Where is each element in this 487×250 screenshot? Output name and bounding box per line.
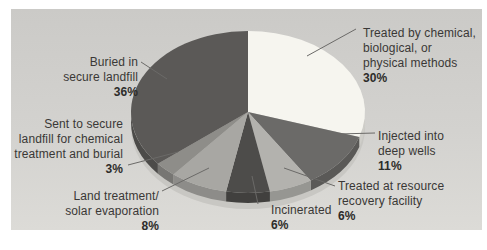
label-injected-into-deep-wells: Injected into deep wells 11% [378, 129, 444, 174]
label-percent: 6% [271, 218, 331, 233]
label-line: recovery facility [338, 194, 444, 209]
label-sent-to-secure-landfill: Sent to secure landfill for chemical tre… [14, 117, 123, 177]
label-line: Treated by chemical, [363, 26, 476, 41]
figure: Treated by chemical, biological, or phys… [0, 0, 487, 250]
label-line: deep wells [378, 144, 444, 159]
leader-line-treated-by-chemical [307, 29, 356, 56]
label-line: Sent to secure [14, 117, 123, 132]
label-percent: 11% [378, 159, 444, 174]
label-percent: 36% [63, 85, 138, 100]
label-line: solar evaporation [65, 204, 159, 219]
label-percent: 30% [363, 71, 476, 86]
label-buried-in-secure-landfill: Buried in secure landfill 36% [63, 55, 138, 100]
label-line: Land treatment/ [65, 189, 159, 204]
label-line: physical methods [363, 56, 476, 71]
label-land-treatment-solar-evaporation: Land treatment/ solar evaporation 8% [65, 189, 159, 234]
label-line: treatment and burial [14, 147, 123, 162]
label-line: landfill for chemical [14, 132, 123, 147]
label-line: biological, or [363, 41, 476, 56]
label-line: Treated at resource [338, 179, 444, 194]
label-percent: 6% [338, 209, 444, 224]
label-line: Incinerated [271, 203, 331, 218]
label-treated-by-chemical: Treated by chemical, biological, or phys… [363, 26, 476, 86]
label-treated-at-resource-recovery: Treated at resource recovery facility 6% [338, 179, 444, 224]
label-line: Injected into [378, 129, 444, 144]
label-percent: 3% [14, 162, 123, 177]
label-line: Buried in [63, 55, 138, 70]
label-incinerated: Incinerated 6% [271, 203, 331, 233]
label-percent: 8% [65, 219, 159, 234]
pie-slice-side-incinerated [226, 192, 270, 203]
label-line: secure landfill [63, 70, 138, 85]
